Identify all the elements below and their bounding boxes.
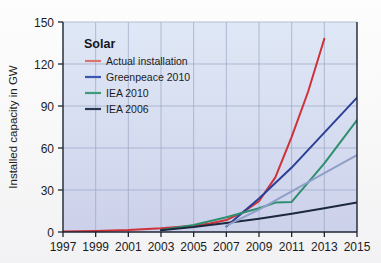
solar-capacity-line-chart: 0306090120150 19971999200120032005200720… <box>0 0 381 263</box>
legend-title: Solar <box>84 37 115 51</box>
legend-label: IEA 2006 <box>106 103 149 115</box>
x-tick-label: 1999 <box>82 240 109 254</box>
y-tick-label: 150 <box>34 16 54 30</box>
x-tick-label: 2001 <box>115 240 142 254</box>
x-tick-label: 2003 <box>148 240 175 254</box>
x-tick-label: 2009 <box>246 240 273 254</box>
plot-area-background <box>63 22 357 232</box>
y-axis-ticks: 0306090120150 <box>34 16 63 240</box>
legend-label: Greenpeace 2010 <box>106 71 190 83</box>
x-tick-label: 2013 <box>311 240 338 254</box>
figure-container: 0306090120150 19971999200120032005200720… <box>0 0 381 263</box>
x-tick-label: 1997 <box>50 240 77 254</box>
x-tick-label: 2007 <box>213 240 240 254</box>
y-tick-label: 90 <box>41 100 55 114</box>
y-tick-label: 60 <box>41 142 55 156</box>
y-tick-label: 30 <box>41 184 55 198</box>
x-axis-ticks: 1997199920012003200520072009201120132015 <box>50 232 371 254</box>
y-axis-title: Installed capacity in GW <box>7 65 19 189</box>
y-tick-label: 0 <box>47 226 54 240</box>
x-tick-label: 2011 <box>279 240 305 254</box>
x-tick-label: 2015 <box>344 240 371 254</box>
legend-label: Actual installation <box>106 55 188 67</box>
legend-label: IEA 2010 <box>106 87 149 99</box>
x-tick-label: 2005 <box>180 240 207 254</box>
y-tick-label: 120 <box>34 58 54 72</box>
